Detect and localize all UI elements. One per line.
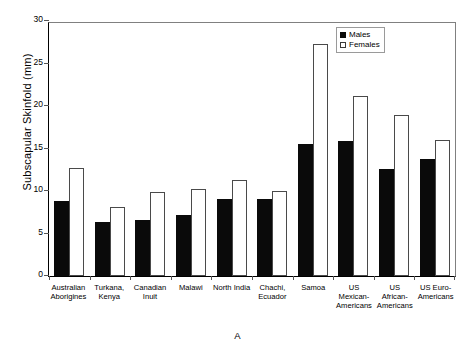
bar-females-samoa[interactable] <box>313 44 328 276</box>
bar-males-chachi-ecuador[interactable] <box>257 199 272 276</box>
x-label-malawi: Malawi <box>170 283 211 311</box>
bar-groups <box>49 23 455 276</box>
x-label-us-euro-americans: US Euro-Americans <box>415 283 456 311</box>
x-tick-mark <box>374 276 375 280</box>
x-tick-mark <box>211 276 212 280</box>
bar-pair <box>217 23 247 276</box>
plot-area: 051015202530 <box>48 22 456 277</box>
bar-females-us-euro-americans[interactable] <box>435 140 450 276</box>
x-label-canadian-inuit: CanadianInuit <box>130 283 171 311</box>
bar-group <box>414 23 455 276</box>
y-tick-label: 30 <box>21 14 43 24</box>
x-tick-mark <box>49 276 50 280</box>
bar-males-us-mexican-americans[interactable] <box>338 141 353 276</box>
x-label-line: US <box>374 283 415 292</box>
bar-group <box>211 23 252 276</box>
bar-pair <box>176 23 206 276</box>
bar-females-us-african-americans[interactable] <box>394 115 409 277</box>
bar-pair <box>338 23 368 276</box>
x-label-line: Americans <box>374 301 415 310</box>
y-axis-title: Subscapular Skinfold (mm) <box>21 7 33 237</box>
bar-pair <box>54 23 84 276</box>
x-tick-mark <box>454 276 455 280</box>
x-label-line: Malawi <box>170 283 211 292</box>
chart-legend: Males Females <box>336 27 385 53</box>
x-label-north-india: North India <box>211 283 252 311</box>
x-label-australian-aborigines: AustralianAborigines <box>48 283 89 311</box>
x-label-line: Americans <box>415 292 456 301</box>
legend-swatch-females-icon <box>340 42 346 48</box>
bar-group <box>293 23 334 276</box>
bar-males-us-euro-americans[interactable] <box>420 159 435 276</box>
bar-pair <box>379 23 409 276</box>
x-label-line: US <box>334 283 375 292</box>
bar-pair <box>95 23 125 276</box>
bar-males-turkana-kenya[interactable] <box>95 222 110 276</box>
legend-label-females: Females <box>349 40 380 50</box>
bar-pair <box>257 23 287 276</box>
x-label-turkana-kenya: Turkana,Kenya <box>89 283 130 311</box>
y-tick-mark <box>44 20 49 21</box>
x-label-line: Inuit <box>130 292 171 301</box>
bar-females-north-india[interactable] <box>232 180 247 276</box>
bar-males-australian-aborigines[interactable] <box>54 201 69 276</box>
x-tick-mark <box>252 276 253 280</box>
bar-females-chachi-ecuador[interactable] <box>272 191 287 276</box>
bar-pair <box>135 23 165 276</box>
x-label-line: US Euro- <box>415 283 456 292</box>
bar-group <box>171 23 212 276</box>
bar-group <box>49 23 90 276</box>
bar-males-north-india[interactable] <box>217 199 232 276</box>
bar-females-us-mexican-americans[interactable] <box>353 96 368 276</box>
y-tick-label: 25 <box>21 57 43 67</box>
bar-group <box>374 23 415 276</box>
x-tick-mark <box>414 276 415 280</box>
x-tick-mark <box>171 276 172 280</box>
x-label-line: Turkana, <box>89 283 130 292</box>
x-tick-mark <box>90 276 91 280</box>
x-tick-mark <box>333 276 334 280</box>
x-label-line: Americans <box>334 301 375 310</box>
x-label-us-african-americans: USAfrican-Americans <box>374 283 415 311</box>
bar-group <box>252 23 293 276</box>
x-label-line: Mexican- <box>334 292 375 301</box>
bar-group <box>90 23 131 276</box>
x-label-line: Chachi, <box>252 283 293 292</box>
bar-males-canadian-inuit[interactable] <box>135 220 150 276</box>
bar-group <box>333 23 374 276</box>
x-tick-mark <box>130 276 131 280</box>
legend-item-females: Females <box>340 40 380 50</box>
bar-females-turkana-kenya[interactable] <box>110 207 125 276</box>
x-label-line: African- <box>374 292 415 301</box>
x-label-line: Ecuador <box>252 292 293 301</box>
x-label-line: Australian <box>48 283 89 292</box>
legend-item-males: Males <box>340 30 380 40</box>
legend-swatch-males-icon <box>340 32 346 38</box>
x-label-samoa: Samoa <box>293 283 334 311</box>
x-label-line: North India <box>211 283 252 292</box>
bar-males-malawi[interactable] <box>176 215 191 276</box>
bar-females-australian-aborigines[interactable] <box>69 168 84 276</box>
x-label-chachi-ecuador: Chachi,Ecuador <box>252 283 293 311</box>
panel-caption: A <box>0 330 475 341</box>
y-tick-label: 5 <box>21 227 43 237</box>
y-tick-label: 20 <box>21 99 43 109</box>
bar-males-samoa[interactable] <box>298 144 313 276</box>
x-label-line: Kenya <box>89 292 130 301</box>
chart-figure: Subscapular Skinfold (mm) 051015202530 A… <box>0 0 475 353</box>
y-tick-label: 15 <box>21 142 43 152</box>
legend-label-males: Males <box>349 30 370 40</box>
bar-pair <box>420 23 450 276</box>
x-label-line: Aborigines <box>48 292 89 301</box>
x-label-us-mexican-americans: USMexican-Americans <box>334 283 375 311</box>
bar-females-canadian-inuit[interactable] <box>150 192 165 276</box>
x-label-line: Samoa <box>293 283 334 292</box>
y-tick-label: 0 <box>21 269 43 279</box>
x-axis-labels: AustralianAboriginesTurkana,KenyaCanadia… <box>48 283 456 311</box>
x-tick-mark <box>293 276 294 280</box>
bar-females-malawi[interactable] <box>191 189 206 276</box>
x-label-line: Canadian <box>130 283 171 292</box>
bar-males-us-african-americans[interactable] <box>379 169 394 276</box>
bar-pair <box>298 23 328 276</box>
y-tick-label: 10 <box>21 184 43 194</box>
